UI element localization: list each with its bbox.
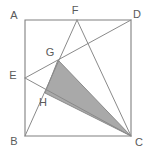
label-point-f: F: [72, 4, 79, 16]
label-point-c: C: [135, 136, 143, 148]
segment-ed: [25, 20, 131, 78]
label-point-g: G: [46, 46, 55, 58]
square-abcd: [25, 20, 131, 136]
shaded-triangle-ghc: [45, 60, 131, 136]
label-point-e: E: [9, 69, 16, 81]
geometry-canvas: A B C D E F G H: [0, 0, 151, 160]
label-point-a: A: [10, 9, 18, 21]
geometry-figure: A B C D E F G H: [0, 0, 151, 160]
label-point-d: D: [133, 8, 141, 20]
label-point-h: H: [39, 96, 47, 108]
label-point-b: B: [10, 135, 17, 147]
